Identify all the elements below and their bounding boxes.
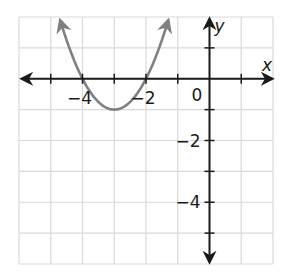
origin-label: 0 — [192, 85, 203, 105]
coordinate-plane: x y 0 −4−2−2−4 — [0, 0, 286, 274]
x-tick-label: −2 — [130, 88, 155, 108]
grid — [19, 17, 273, 264]
y-tick-label: −2 — [175, 131, 200, 151]
x-axis-label: x — [261, 55, 273, 75]
y-axis-label: y — [214, 16, 226, 36]
y-tick-label: −4 — [175, 192, 200, 212]
labels: x y 0 −4−2−2−4 — [67, 16, 273, 212]
x-tick-label: −4 — [67, 88, 92, 108]
